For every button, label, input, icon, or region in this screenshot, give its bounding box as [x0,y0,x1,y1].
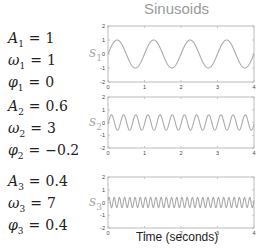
x-tick-label: 3 [216,150,219,156]
y-tick-label: -2 [100,79,105,85]
x-tick-label: 2 [179,150,182,156]
param-amplitude-3: A3=0.4 [8,173,68,195]
x-tick-label: 3 [216,84,219,90]
y-tick-label: 2 [102,94,105,100]
plot-s3: 210-1-201234 [96,173,261,238]
y-tick-label: 0 [102,120,105,126]
y-tick-label: -1 [100,65,105,71]
y-tick-label: 0 [102,51,105,57]
y-tick-label: 1 [102,107,105,113]
x-tick-label: 4 [252,84,255,90]
y-tick-label: 2 [102,174,105,180]
plot-s1: 210-1-201234 [96,22,261,92]
y-tick-label: 1 [102,187,105,193]
params-block-1: A1=1 ω1=1 φ1=0 [8,30,56,95]
sinusoid-line [108,197,254,207]
param-omega-3: ω3=7 [8,195,68,217]
param-amplitude-2: A2=0.6 [8,98,79,120]
y-tick-label: 0 [102,200,105,206]
param-amplitude-1: A1=1 [8,30,56,52]
plot-s2: 210-1-201234 [96,93,261,158]
y-tick-label: 1 [102,37,105,43]
param-phi-1: φ1=0 [8,74,56,96]
param-omega-2: ω2=3 [8,120,79,142]
sinusoid-line [108,115,254,130]
param-phi-2: φ2=−0.2 [8,142,79,164]
y-tick-label: -2 [100,145,105,151]
y-tick-label: 2 [102,23,105,29]
params-block-2: A2=0.6 ω2=3 φ2=−0.2 [8,98,79,163]
x-tick-label: 0 [106,230,109,236]
param-phi-3: φ3=0.4 [8,217,68,239]
x-tick-label: 1 [143,150,146,156]
sinusoid-line [108,40,254,68]
y-tick-label: -1 [100,212,105,218]
x-tick-label: 4 [252,230,255,236]
y-tick-label: -1 [100,132,105,138]
x-tick-label: 2 [179,84,182,90]
x-tick-label: 0 [106,150,109,156]
params-block-3: A3=0.4 ω3=7 φ3=0.4 [8,173,68,238]
param-omega-1: ω1=1 [8,52,56,74]
x-tick-label: 1 [143,84,146,90]
x-tick-label: 0 [106,84,109,90]
x-axis-label: Time (seconds) [136,230,218,244]
y-tick-label: -2 [100,225,105,231]
chart-title: Sinusoids [0,0,263,17]
x-tick-label: 4 [252,150,255,156]
